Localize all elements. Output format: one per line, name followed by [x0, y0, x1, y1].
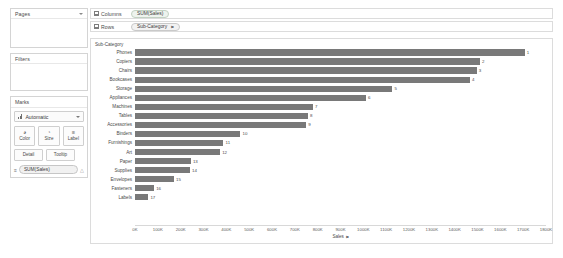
rows-field-pill[interactable]: Sub-Category ⫢	[131, 23, 180, 31]
filters-card-header[interactable]: Filters	[11, 54, 87, 64]
rows-field-text: Sub-Category	[137, 24, 167, 29]
bar[interactable]	[135, 86, 392, 92]
bar-row-label: Binders	[116, 129, 132, 138]
columns-label-text: Columns	[101, 11, 121, 17]
bar-value-label: 2	[480, 57, 485, 66]
bar-row[interactable]: Tables8	[135, 111, 546, 120]
x-axis-tick: 600K	[267, 227, 277, 232]
bar-value-label: 3	[477, 66, 482, 75]
bar[interactable]	[135, 140, 223, 146]
bar[interactable]	[135, 104, 313, 110]
bar-row-label: Chairs	[119, 66, 132, 75]
bar[interactable]	[135, 194, 148, 200]
filters-card: Filters	[10, 53, 88, 91]
bar-value-label: 15	[174, 175, 181, 184]
bar-value-label: 16	[154, 184, 161, 193]
bar-row[interactable]: Storage5	[135, 84, 546, 93]
bar[interactable]	[135, 158, 191, 164]
bar[interactable]	[135, 67, 477, 73]
bar[interactable]	[135, 176, 174, 182]
bar-row[interactable]: Furnishings11	[135, 138, 546, 147]
bar-value-label: 17	[148, 193, 155, 202]
bar[interactable]	[135, 77, 470, 83]
bar-value-label: 14	[190, 166, 197, 175]
tableau-worksheet: Pages Filters Marks Automatic	[0, 0, 563, 258]
row-header-title: Sub-Category	[95, 42, 123, 47]
bar[interactable]	[135, 58, 480, 64]
marks-tooltip-button[interactable]: Tooltip	[46, 149, 75, 161]
bar-row[interactable]: Art12	[135, 148, 546, 157]
worksheet-area: Columns SUM(Sales) Rows Sub-Category ⫢ S…	[90, 8, 553, 244]
bar-row[interactable]: Copiers2	[135, 57, 546, 66]
bar-row-label: Envelopes	[111, 175, 132, 184]
bar-row[interactable]: Fasteners16	[135, 184, 546, 193]
pages-card-header[interactable]: Pages	[11, 9, 87, 19]
visualization-panel: Sub-Category Phones1Copiers2Chairs3Bookc…	[90, 38, 553, 244]
x-axis-tick: 1300K	[426, 227, 438, 232]
bar-row-label: Art	[126, 148, 132, 157]
marks-size-button[interactable]: ◔ Size	[38, 126, 59, 146]
bar[interactable]	[135, 95, 366, 101]
marks-label-button[interactable]: ≡ Label	[63, 126, 84, 146]
bar[interactable]	[135, 113, 308, 119]
x-axis-tick: 1200K	[403, 227, 415, 232]
bar-row[interactable]: Labels17	[135, 193, 546, 202]
filters-dropzone[interactable]	[11, 64, 87, 90]
bar-value-label: 11	[223, 138, 230, 147]
warning-icon[interactable]: △	[80, 167, 84, 173]
bar-row-label: Bookcases	[110, 75, 132, 84]
marks-detail-label: Detail	[23, 153, 35, 158]
pages-dropzone[interactable]	[11, 19, 87, 47]
x-axis-tick: 1500K	[471, 227, 483, 232]
x-axis-tick: 700K	[290, 227, 300, 232]
bar-row[interactable]: Appliances6	[135, 93, 546, 102]
columns-field-pill[interactable]: SUM(Sales)	[131, 10, 169, 18]
x-axis-tick: 1100K	[380, 227, 392, 232]
bar-row-label: Phones	[116, 48, 132, 57]
rows-shelf[interactable]: Rows Sub-Category ⫢	[90, 21, 553, 32]
bar-row[interactable]: Chairs3	[135, 66, 546, 75]
bar-value-label: 7	[313, 102, 318, 111]
bar-value-label: 13	[191, 157, 198, 166]
bar[interactable]	[135, 122, 306, 128]
x-axis-title[interactable]: Sales ⫢	[332, 234, 348, 239]
x-axis-tick: 1800K	[540, 227, 552, 232]
x-axis-title-text: Sales	[332, 234, 344, 239]
pages-title: Pages	[15, 11, 30, 17]
chevron-down-icon[interactable]	[79, 13, 83, 15]
x-axis-tick: 0K	[132, 227, 137, 232]
x-axis-tick: 1700K	[517, 227, 529, 232]
marks-measure-pill[interactable]: SUM(Sales)	[19, 165, 78, 174]
bar-row[interactable]: Accessories9	[135, 120, 546, 129]
bar[interactable]	[135, 131, 240, 137]
text-mark-icon: ≡	[14, 167, 17, 173]
bar-row[interactable]: Bookcases4	[135, 75, 546, 84]
bar-row[interactable]: Machines7	[135, 102, 546, 111]
marks-color-button[interactable]: ◕ Color	[14, 126, 35, 146]
bar-value-label: 10	[240, 129, 247, 138]
marks-card: Marks Automatic ◕ Color ◔ Size	[10, 96, 88, 178]
chevron-down-icon[interactable]	[76, 116, 80, 118]
marks-detail-button[interactable]: Detail	[14, 149, 43, 161]
plot-area: Phones1Copiers2Chairs3Bookcases4Storage5…	[135, 48, 546, 225]
bar-row[interactable]: Binders10	[135, 129, 546, 138]
bar-row[interactable]: Paper13	[135, 157, 546, 166]
bar-value-label: 9	[306, 120, 311, 129]
bar-row-label: Labels	[118, 193, 132, 202]
marks-tooltip-label: Tooltip	[54, 153, 67, 158]
columns-shelf[interactable]: Columns SUM(Sales)	[90, 8, 553, 19]
bar-row[interactable]: Supplies14	[135, 166, 546, 175]
left-sidebar: Pages Filters Marks Automatic	[10, 8, 88, 244]
bar-row-label: Storage	[116, 84, 132, 93]
sort-descending-icon[interactable]: ⫢	[346, 234, 349, 239]
bar-row[interactable]: Envelopes15	[135, 175, 546, 184]
bar-row[interactable]: Phones1	[135, 48, 546, 57]
mark-type-selector[interactable]: Automatic	[14, 111, 84, 122]
bar[interactable]	[135, 185, 154, 191]
x-axis-tick: 1600K	[494, 227, 506, 232]
viz-inner: Sub-Category Phones1Copiers2Chairs3Bookc…	[91, 39, 552, 243]
bar[interactable]	[135, 49, 525, 55]
bar[interactable]	[135, 149, 220, 155]
bar[interactable]	[135, 167, 190, 173]
sort-descending-icon[interactable]: ⫢	[171, 24, 174, 29]
